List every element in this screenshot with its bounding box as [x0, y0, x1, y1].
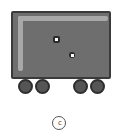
- option-label-circle[interactable]: c: [52, 116, 66, 130]
- wheel-3: [73, 79, 88, 94]
- square-rivet-icon: [53, 36, 60, 43]
- round-rivet-icon: [69, 52, 75, 58]
- wagon-highlight-top: [18, 16, 108, 21]
- wagon-body: [11, 11, 111, 79]
- wheel-2: [35, 79, 50, 94]
- wheel-1: [18, 79, 33, 94]
- wagon-highlight-left: [18, 16, 23, 71]
- option-label: c: [58, 119, 62, 127]
- wheel-4: [90, 79, 105, 94]
